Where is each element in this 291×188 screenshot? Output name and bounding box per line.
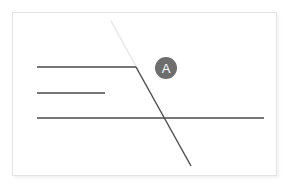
diagonal-line-faint-upper [111, 21, 138, 70]
badge-marker-a[interactable]: A [155, 57, 177, 79]
diagram-vector-layer [13, 13, 278, 177]
diagram-canvas[interactable]: A [13, 13, 276, 175]
badge-marker-a-label: A [162, 62, 171, 75]
diagram-card: A [12, 12, 277, 176]
diagonal-line-descending[interactable] [136, 67, 191, 166]
screenshot-root: A [0, 0, 291, 188]
